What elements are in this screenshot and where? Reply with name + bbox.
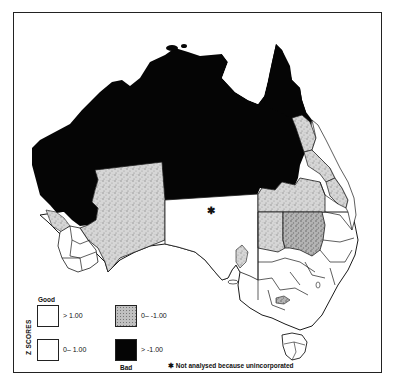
legend-swatch-0-to-1: [37, 339, 59, 361]
region-tasmania[interactable]: [282, 333, 307, 360]
legend-label-0-to-neg1: 0– -1.00: [141, 312, 167, 319]
legend-label-above-1: > 1.00: [63, 312, 83, 319]
asterisk-icon: ✱: [168, 362, 174, 369]
australia-map: ✱: [0, 0, 395, 385]
legend-swatch-below-neg1: [115, 339, 137, 361]
legend-label-below-neg1: > -1.00: [141, 346, 163, 353]
legend-title: Z SCORES: [25, 319, 32, 355]
unincorporated-note: ✱ Not analysed because unincorporated: [168, 362, 294, 370]
melville-island: [166, 45, 178, 51]
lake-marker: [316, 282, 320, 288]
legend-bad-label: Bad: [120, 364, 132, 371]
kangaroo-island: [228, 280, 238, 284]
legend-good-label: Good: [38, 296, 55, 303]
legend-label-0-to-1: 0– 1.00: [63, 346, 86, 353]
note-text: Not analysed because unincorporated: [176, 362, 294, 369]
small-island: [181, 44, 187, 48]
legend-swatch-above-1: [37, 305, 59, 327]
region-nsw-west[interactable]: [258, 212, 285, 252]
legend-swatch-0-to-neg1: [115, 305, 137, 327]
unincorporated-marker: ✱: [207, 205, 216, 216]
